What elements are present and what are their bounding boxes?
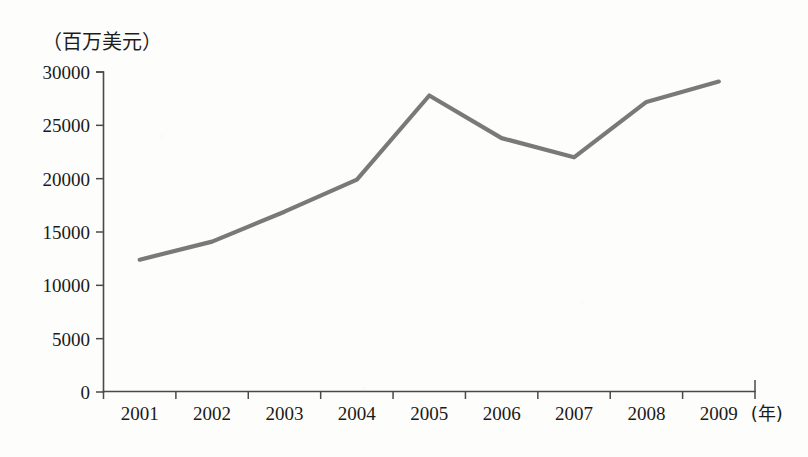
y-axis-ticks bbox=[96, 72, 104, 392]
y-tick-label: 5000 bbox=[52, 329, 90, 350]
data-series-line bbox=[140, 82, 719, 260]
y-tick-label: 10000 bbox=[43, 275, 91, 296]
x-tick-label: 2006 bbox=[483, 403, 521, 424]
x-tick-label: 2005 bbox=[410, 403, 448, 424]
x-tick-label: 2007 bbox=[555, 403, 593, 424]
x-axis-ticks bbox=[104, 380, 756, 399]
y-axis-tick-labels: 050001000015000200002500030000 bbox=[43, 62, 91, 403]
y-tick-label: 20000 bbox=[43, 169, 91, 190]
y-tick-label: 0 bbox=[81, 382, 91, 403]
y-tick-label: 30000 bbox=[43, 62, 91, 83]
x-tick-label: 2003 bbox=[265, 403, 303, 424]
line-chart-plot: 050001000015000200002500030000 200120022… bbox=[0, 0, 808, 457]
y-tick-label: 15000 bbox=[43, 222, 91, 243]
y-tick-label: 25000 bbox=[43, 115, 91, 136]
x-axis: 200120022003200420052006200720082009 (年) bbox=[104, 380, 783, 424]
x-tick-label: 2001 bbox=[121, 403, 159, 424]
x-tick-label: 2004 bbox=[338, 403, 377, 424]
chart-container: （百万美元） 050001000015000200002500030000 20… bbox=[0, 0, 808, 457]
x-tick-label: 2008 bbox=[627, 403, 665, 424]
x-tick-label: 2002 bbox=[193, 403, 231, 424]
x-tick-label: 2009 bbox=[700, 403, 738, 424]
y-axis: 050001000015000200002500030000 bbox=[43, 62, 104, 403]
x-axis-unit-label: (年) bbox=[751, 403, 783, 424]
x-axis-tick-labels: 200120022003200420052006200720082009 bbox=[121, 403, 738, 424]
